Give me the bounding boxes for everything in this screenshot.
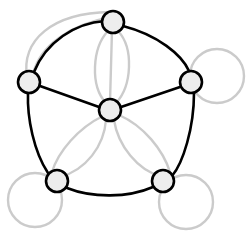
primary-edge-left-center — [40, 86, 99, 107]
primary-edge-bottomright-bottomleft — [67, 187, 153, 195]
node-bottom-left[interactable] — [46, 170, 68, 192]
node-center[interactable] — [99, 99, 121, 121]
secondary-edge-center-bottomright-arc-left — [114, 120, 160, 176]
secondary-edge-top-center-straight — [110, 30, 112, 102]
secondary-edge-top-center-arc-right — [116, 31, 129, 103]
primary-edge-bottomleft-left — [28, 93, 48, 173]
primary-edge-right-bottomright — [172, 93, 194, 176]
node-top[interactable] — [102, 11, 124, 33]
node-bottom-right[interactable] — [152, 170, 174, 192]
graph-figure — [0, 0, 252, 231]
secondary-self-loop-group — [8, 49, 244, 229]
graph-canvas — [0, 0, 252, 231]
secondary-edge-center-bottomleft-arc-left — [52, 116, 103, 172]
primary-edge-right-center — [121, 87, 180, 107]
primary-edge-top-right — [123, 26, 189, 71]
secondary-edge-center-bottomright-arc-right — [119, 115, 170, 172]
node-group — [18, 11, 202, 192]
secondary-edge-group — [26, 12, 170, 177]
node-left[interactable] — [18, 71, 40, 93]
secondary-edge-top-center-arc-left — [95, 31, 108, 103]
node-right[interactable] — [180, 71, 202, 93]
